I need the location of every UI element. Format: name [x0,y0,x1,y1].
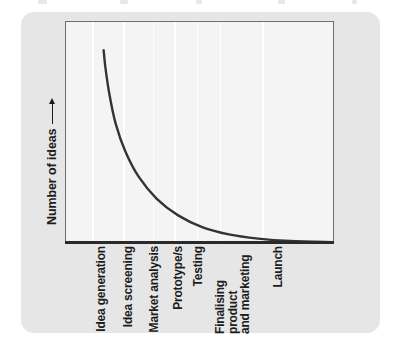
page-top-artifacts [0,0,397,7]
top-artifact-mark [278,0,285,4]
top-artifact-mark [38,0,47,4]
x-label-testing: Testing [192,246,205,286]
top-artifact-mark [196,0,202,4]
y-axis-title: Number of ideas [42,75,62,225]
x-label-prototype-s: Prototype/s [172,246,185,310]
x-label-line: Idea screening [122,246,135,327]
figure-card: Number of ideas Idea generationIdea scre… [21,12,380,333]
x-label-idea-generation: Idea generation [95,246,108,332]
curve-path [104,50,333,242]
decay-curve [66,22,333,243]
y-axis-title-text: Number of ideas [45,129,59,225]
x-label-line: Prototype/s [172,246,185,310]
x-label-launch: Launch [272,246,285,287]
x-label-market-analysis: Market analysis [148,246,161,332]
plot-area [65,21,334,244]
x-label-line: and marketing [239,246,252,334]
x-label-line: Finalising [214,246,227,334]
x-label-idea-screening: Idea screening [122,246,135,327]
x-label-finalising-product-and-marketing: Finalisingproductand marketing [214,246,252,334]
x-label-line: Launch [272,246,285,287]
x-label-line: Idea generation [95,246,108,332]
top-artifact-mark [352,0,357,4]
top-artifact-mark [120,0,128,4]
x-label-line: Testing [192,246,205,286]
x-label-line: Market analysis [148,246,161,332]
up-arrow-icon [47,98,57,124]
x-axis-labels: Idea generationIdea screeningMarket anal… [21,246,380,336]
